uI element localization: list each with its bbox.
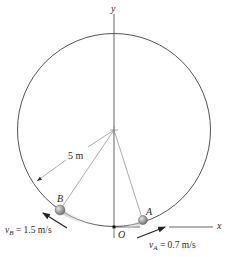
velocity-b-label: vB = 1.5 m/s [5,226,52,237]
origin-label: O [118,230,125,240]
velocity-b-value: = 1.5 m/s [14,225,52,235]
velocity-a-value: = 0.7 m/s [158,240,196,250]
ball-b-label: B [57,194,63,204]
radial-lines [62,130,142,218]
velocity-a-arrow [137,227,165,238]
diagram-canvas [0,0,229,257]
ball-a-label: A [146,207,152,217]
circular-track-diagram: y x O 5 m B A vB = 1.5 m/s vA = 0.7 m/s [0,0,229,257]
x-axis-label: x [217,221,221,231]
ball-b [55,205,65,215]
ball-b-trail [62,212,100,226]
y-axis-label: y [111,4,115,14]
velocity-a-label: vA = 0.7 m/s [149,241,196,252]
origin-point [113,226,116,229]
radius-label: 5 m [68,151,83,161]
